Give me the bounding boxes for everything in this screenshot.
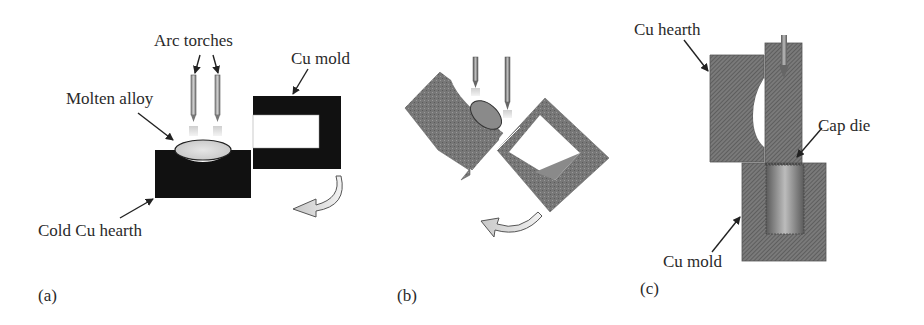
label-cu-mold-a: Cu mold [291,50,350,67]
label-molten-alloy: Molten alloy [66,90,153,107]
label-cu-hearth: Cu hearth [634,21,701,38]
panel-a-drawing [120,55,342,218]
panel-label-a: (a) [38,287,57,304]
rotation-arrow-b [481,212,542,237]
panel-label-b: (b) [397,287,417,304]
rotation-arrow-a [293,176,342,217]
arc-torch-right-b [505,57,510,102]
panel-b-drawing [405,57,609,237]
label-cu-mold-c: Cu mold [663,253,722,270]
arc-torch-left [191,75,196,115]
label-cold-cu-hearth: Cold Cu hearth [38,222,142,239]
figure-canvas [0,0,924,325]
molten-alloy [175,140,231,160]
arc-glow-left [189,126,198,136]
label-arc-torches: Arc torches [154,32,233,49]
label-cap-die: Cap die [818,117,870,134]
panel-label-c: (c) [640,280,659,297]
cast-ingot [766,165,804,234]
panel-c-drawing [684,35,826,261]
arc-torch-left-b [473,57,478,81]
plunger-rod [781,35,787,65]
arc-torch-right [215,75,220,115]
arc-glow-right [213,126,222,136]
